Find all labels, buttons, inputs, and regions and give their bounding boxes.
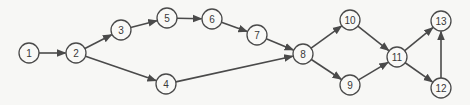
node-label: 2 — [73, 48, 79, 59]
edge-11-to-12 — [405, 63, 432, 82]
node-label: 8 — [300, 49, 306, 60]
node-1: 1 — [19, 43, 39, 63]
edge-5-to-6 — [177, 18, 202, 19]
node-label: 7 — [254, 30, 260, 41]
node-label: 6 — [209, 14, 215, 25]
edge-2-to-4 — [85, 56, 156, 80]
edge-3-to-5 — [131, 21, 157, 28]
edge-9-to-11 — [359, 62, 388, 80]
edge-10-to-11 — [358, 26, 389, 50]
node-13: 13 — [431, 11, 451, 31]
edge-4-to-8 — [176, 56, 293, 82]
nodes-layer: 12345678910111213 — [19, 8, 451, 98]
node-label: 3 — [118, 25, 124, 36]
node-9: 9 — [340, 75, 360, 95]
edges-layer — [39, 18, 441, 82]
node-label: 9 — [347, 80, 353, 91]
node-label: 4 — [163, 79, 169, 90]
network-diagram: 12345678910111213 — [0, 0, 470, 105]
node-label: 13 — [435, 16, 447, 27]
node-4: 4 — [156, 74, 176, 94]
node-10: 10 — [340, 10, 360, 30]
edge-6-to-7 — [221, 22, 247, 31]
node-2: 2 — [66, 43, 86, 63]
node-label: 5 — [164, 13, 170, 24]
node-8: 8 — [293, 44, 313, 64]
edge-2-to-3 — [85, 35, 112, 49]
node-7: 7 — [247, 25, 267, 45]
node-11: 11 — [387, 47, 407, 67]
node-label: 11 — [392, 52, 403, 63]
node-12: 12 — [431, 78, 451, 98]
node-label: 12 — [435, 83, 447, 94]
node-label: 1 — [26, 48, 32, 59]
node-label: 10 — [344, 15, 356, 26]
edge-8-to-10 — [311, 26, 341, 48]
node-3: 3 — [111, 20, 131, 40]
node-5: 5 — [157, 8, 177, 28]
node-6: 6 — [202, 9, 222, 29]
edge-7-to-8 — [266, 39, 293, 50]
edge-11-to-13 — [405, 28, 433, 51]
edge-8-to-9 — [311, 60, 341, 80]
